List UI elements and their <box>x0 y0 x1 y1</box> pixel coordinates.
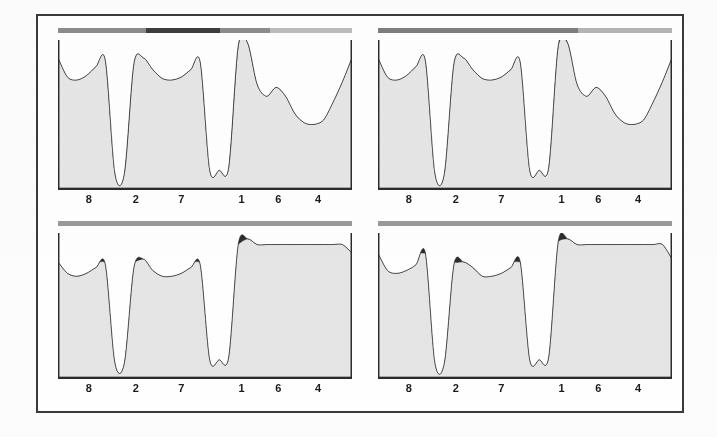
x-axis-line-bottom-right <box>378 377 672 379</box>
x-tick-label-4: 4 <box>315 381 321 395</box>
x-tick-label-6: 6 <box>595 381 601 395</box>
x-tick-label-1: 1 <box>239 381 245 395</box>
x-tick-label-8: 8 <box>86 192 92 206</box>
chart-panel-bottom-left: 827164 <box>46 215 358 407</box>
profile-svg <box>378 233 672 377</box>
x-tick-label-8: 8 <box>86 381 92 395</box>
scan-bar-segment <box>578 28 672 33</box>
plot-area-bottom-right <box>378 233 672 377</box>
chart-panel-bottom-right: 827164 <box>366 215 678 407</box>
scan-bar-segment <box>270 28 352 33</box>
plot-area-top-right <box>378 40 672 188</box>
chart-panel-top-right: 827164 <box>366 22 678 218</box>
x-tick-label-7: 7 <box>498 192 504 206</box>
scan-bar-top-right <box>378 28 672 33</box>
x-axis-ticks-bottom-right: 827164 <box>378 381 672 399</box>
x-tick-label-7: 7 <box>178 381 184 395</box>
light-envelope-area <box>378 233 672 377</box>
plot-area-top-left <box>58 40 352 188</box>
x-tick-label-1: 1 <box>559 381 565 395</box>
x-tick-label-7: 7 <box>498 381 504 395</box>
x-axis-line-top-left <box>58 188 352 190</box>
profile-svg <box>58 40 352 188</box>
scan-bar-top-left <box>58 28 352 33</box>
x-axis-line-bottom-left <box>58 377 352 379</box>
scan-bar-segment <box>220 28 270 33</box>
scan-bar-bottom-left <box>58 221 352 226</box>
scan-bar-segment <box>58 28 146 33</box>
x-tick-label-7: 7 <box>178 192 184 206</box>
scan-bar-segment <box>378 28 578 33</box>
profile-svg <box>378 40 672 188</box>
x-tick-label-6: 6 <box>595 192 601 206</box>
x-axis-line-top-right <box>378 188 672 190</box>
plot-area-bottom-left <box>58 233 352 377</box>
light-envelope-area <box>58 235 352 377</box>
x-axis-ticks-bottom-left: 827164 <box>58 381 352 399</box>
light-envelope-area <box>378 40 672 188</box>
x-tick-label-2: 2 <box>133 381 139 395</box>
figure-frame: 827164 827164 827164 827164 <box>36 14 684 413</box>
x-axis-ticks-top-right: 827164 <box>378 192 672 210</box>
x-axis-ticks-top-left: 827164 <box>58 192 352 210</box>
x-tick-label-2: 2 <box>453 192 459 206</box>
x-tick-label-6: 6 <box>275 381 281 395</box>
x-tick-label-4: 4 <box>635 192 641 206</box>
scan-bar-segment <box>146 28 220 33</box>
x-tick-label-6: 6 <box>275 192 281 206</box>
chart-panel-top-left: 827164 <box>46 22 358 218</box>
x-tick-label-1: 1 <box>559 192 565 206</box>
x-tick-label-1: 1 <box>239 192 245 206</box>
light-envelope-area <box>58 40 352 188</box>
x-tick-label-2: 2 <box>133 192 139 206</box>
x-tick-label-8: 8 <box>406 381 412 395</box>
x-tick-label-4: 4 <box>635 381 641 395</box>
x-tick-label-8: 8 <box>406 192 412 206</box>
profile-svg <box>58 233 352 377</box>
scan-bar-segment <box>378 221 672 226</box>
x-tick-label-2: 2 <box>453 381 459 395</box>
scan-bar-segment <box>58 221 352 226</box>
scan-bar-bottom-right <box>378 221 672 226</box>
x-tick-label-4: 4 <box>315 192 321 206</box>
